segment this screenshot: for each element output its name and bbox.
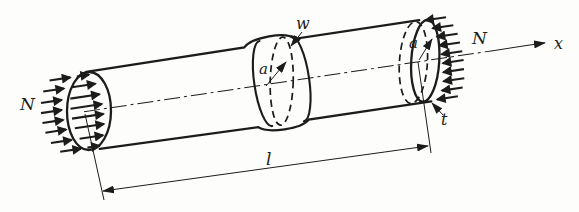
dimension-extension-right: [418, 62, 431, 153]
bulge-left-rim: [248, 41, 272, 128]
x-axis-arrow: [490, 43, 545, 51]
label-radius-a-end: a: [409, 34, 418, 52]
end-radius-a-arrow: [419, 39, 432, 60]
label-thickness-t: t: [441, 110, 448, 129]
label-length-l: l: [266, 149, 271, 169]
label-x-axis: x: [554, 34, 563, 53]
dimension-extension-left: [85, 114, 104, 200]
label-force-left: N: [19, 94, 36, 114]
cylinder-group: [35, 0, 552, 165]
bulge-hidden-section: [269, 37, 294, 126]
shell-under-axial-load-diagram: N N x w a a t l: [0, 0, 579, 212]
label-bulge-w: w: [296, 14, 310, 33]
figure-canvas: N N x w a a t l: [0, 0, 579, 212]
label-radius-a-mid: a: [259, 60, 268, 78]
label-force-right: N: [471, 28, 488, 48]
